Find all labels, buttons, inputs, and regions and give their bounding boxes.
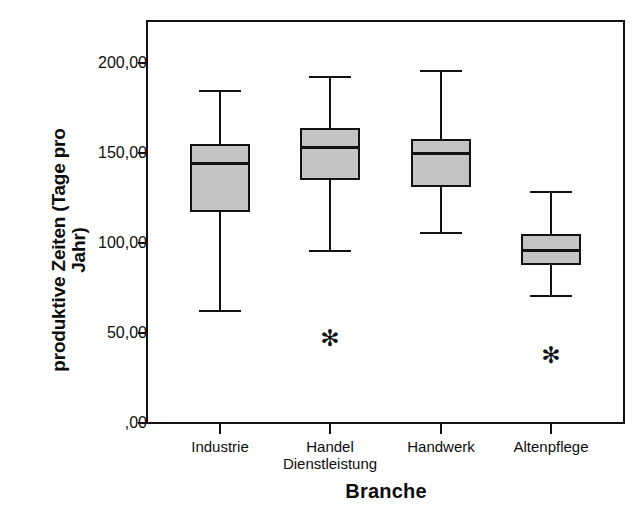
upper-whisker-cap xyxy=(309,76,351,78)
x-tick-mark xyxy=(440,424,442,434)
upper-whisker-line xyxy=(329,76,331,128)
lower-whisker-line xyxy=(440,187,442,232)
median-line xyxy=(190,162,250,165)
x-tick-label-4: Altenpflege xyxy=(466,438,636,455)
upper-whisker-cap xyxy=(199,90,241,92)
lower-whisker-line xyxy=(329,180,331,250)
upper-whisker-line xyxy=(219,90,221,144)
y-axis-ticks: 200,00150,00100,0050,00,00 xyxy=(0,0,147,516)
lower-whisker-line xyxy=(550,265,552,296)
outlier-marker: ✻ xyxy=(320,327,339,350)
y-tick-label: 150,00 xyxy=(61,144,147,162)
y-tick-label: ,00 xyxy=(61,414,147,432)
x-axis-title: Branche xyxy=(146,480,626,503)
median-line xyxy=(300,146,360,149)
iqr-box xyxy=(190,144,250,212)
y-tick-label: 50,00 xyxy=(61,324,147,342)
x-tick-mark xyxy=(219,424,221,434)
lower-whisker-line xyxy=(219,212,221,309)
outlier-marker: ✻ xyxy=(541,343,560,366)
boxplot-chart: produktive Zeiten (Tage pro Jahr) 200,00… xyxy=(0,0,641,516)
x-tick-mark xyxy=(329,424,331,434)
y-tick-label: 100,00 xyxy=(61,234,147,252)
lower-whisker-cap xyxy=(530,295,572,297)
lower-whisker-cap xyxy=(199,310,241,312)
upper-whisker-cap xyxy=(530,191,572,193)
x-tick-mark xyxy=(550,424,552,434)
median-line xyxy=(411,152,471,155)
upper-whisker-line xyxy=(440,70,442,138)
lower-whisker-cap xyxy=(309,250,351,252)
iqr-box xyxy=(300,128,360,180)
median-line xyxy=(521,249,581,252)
lower-whisker-cap xyxy=(420,232,462,234)
upper-whisker-line xyxy=(550,191,552,234)
iqr-box xyxy=(411,139,471,188)
upper-whisker-cap xyxy=(420,70,462,72)
y-tick-label: 200,00 xyxy=(61,54,147,72)
